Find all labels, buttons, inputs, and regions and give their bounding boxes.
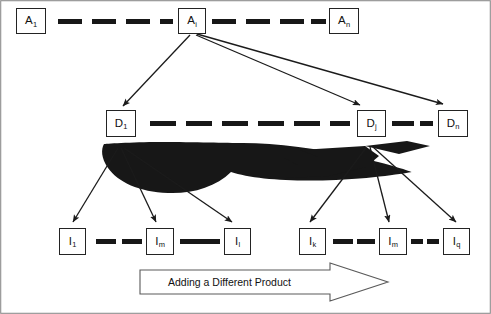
- dash-segment: [186, 121, 212, 126]
- banner-label: Adding a Different Product: [168, 276, 291, 288]
- dash-segment: [126, 19, 150, 24]
- arrow-ai-to-dn: [197, 34, 443, 104]
- node-label-dj: Dj: [367, 118, 377, 130]
- node-dn[interactable]: Dn: [438, 110, 468, 137]
- dash-segment: [246, 19, 270, 24]
- dash-segment: [357, 239, 375, 244]
- node-i1a[interactable]: I1: [59, 228, 86, 255]
- node-im1[interactable]: Im: [146, 228, 174, 255]
- dash-segment: [311, 19, 326, 24]
- arrow-d1-to-i1: [73, 148, 118, 222]
- dash-segment: [392, 121, 414, 126]
- node-ik[interactable]: Ik: [299, 228, 326, 255]
- diagram-canvas: A1AiAnD1DjDnI1ImIlIkImIq Adding a Differ…: [0, 0, 491, 314]
- node-dj[interactable]: Dj: [357, 110, 386, 137]
- node-ai[interactable]: Ai: [178, 8, 206, 34]
- node-label-a1: A1: [25, 15, 37, 27]
- node-label-ai: Ai: [187, 15, 196, 27]
- dash-segment: [294, 121, 320, 126]
- node-im2[interactable]: Im: [379, 228, 407, 255]
- node-label-iq: Iq: [453, 236, 460, 248]
- node-label-ik: Ik: [309, 236, 316, 248]
- node-label-d1: D1: [115, 118, 127, 130]
- dash-segment: [333, 239, 353, 244]
- node-label-im2: Im: [388, 236, 397, 248]
- dash-segment: [180, 239, 200, 244]
- dash-segment: [212, 19, 236, 24]
- dash-segment: [122, 239, 142, 244]
- dash-segment: [330, 121, 350, 126]
- dash-segment: [222, 121, 248, 126]
- node-label-im1: Im: [155, 236, 164, 248]
- node-an[interactable]: An: [329, 8, 359, 34]
- diagram-vector-layer: [0, 0, 491, 314]
- dash-segment: [160, 19, 173, 24]
- dash-segment: [200, 239, 220, 244]
- dash-segment: [411, 239, 423, 244]
- dash-segment: [258, 121, 284, 126]
- dash-segment: [150, 121, 176, 126]
- dash-segment: [92, 19, 116, 24]
- dash-segment: [427, 239, 439, 244]
- dash-segment: [420, 121, 433, 126]
- node-a1[interactable]: A1: [16, 8, 46, 34]
- dash-segment: [58, 19, 82, 24]
- node-label-il: Il: [235, 236, 240, 248]
- node-d1[interactable]: D1: [106, 110, 136, 137]
- arrow-ai-to-d1: [123, 35, 190, 106]
- node-iq[interactable]: Iq: [443, 228, 470, 255]
- arrow-dj-to-iq: [373, 147, 456, 222]
- node-label-dn: Dn: [447, 118, 459, 130]
- dash-segment: [280, 19, 304, 24]
- node-label-an: An: [338, 15, 350, 27]
- arrow-ai-to-dj: [196, 35, 360, 105]
- dash-segment: [96, 239, 116, 244]
- node-label-i1a: I1: [69, 236, 76, 248]
- node-il[interactable]: Il: [224, 228, 251, 255]
